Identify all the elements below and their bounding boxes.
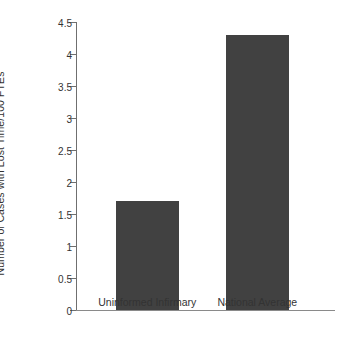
y-tick-label: 3.5: [58, 81, 72, 92]
y-tick-label: 1: [66, 241, 72, 252]
y-tick-label: 3: [66, 113, 72, 124]
y-axis-line: [76, 22, 77, 311]
y-tick-label: 2: [66, 177, 72, 188]
bar: [116, 201, 179, 310]
x-axis-label: National Average: [187, 296, 327, 308]
plot-area: 00.511.522.533.544.5: [76, 22, 335, 310]
bar: [226, 35, 289, 310]
x-axis-line: [76, 310, 335, 311]
y-axis-title: Number of Cases with Lost Time/100 FTEs: [0, 0, 18, 347]
bar-chart: Number of Cases with Lost Time/100 FTEs …: [0, 0, 342, 347]
y-tick-label: 4: [66, 49, 72, 60]
y-tick-label: 1.5: [58, 209, 72, 220]
y-tick-label: 4.5: [58, 17, 72, 28]
y-tick-label: 0: [66, 305, 72, 316]
y-tick-label: 0.5: [58, 273, 72, 284]
y-tick-label: 2.5: [58, 145, 72, 156]
